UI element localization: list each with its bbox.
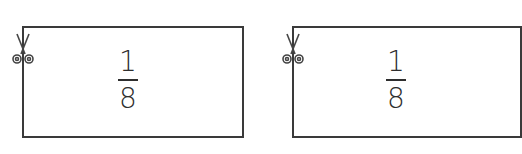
numerator: 1 xyxy=(119,47,137,77)
fraction-bar xyxy=(386,79,406,81)
fraction-card-2: 1 8 xyxy=(292,26,522,138)
scissors-icon xyxy=(278,32,308,68)
fraction: 1 8 xyxy=(118,47,138,114)
fraction-card-1: 1 8 xyxy=(22,26,244,138)
numerator: 1 xyxy=(387,47,405,77)
denominator: 8 xyxy=(119,84,137,114)
fraction-bar xyxy=(118,79,138,81)
denominator: 8 xyxy=(387,84,405,114)
scissors-icon xyxy=(8,32,38,68)
fraction: 1 8 xyxy=(386,47,406,114)
